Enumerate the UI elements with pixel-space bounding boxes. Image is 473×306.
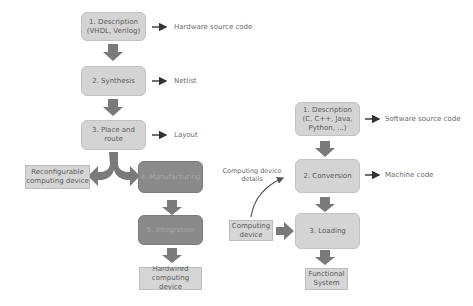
- functional-system: Functional System: [305, 268, 348, 290]
- hw-step-description: 1. Description (VHDL, Verilog): [81, 12, 146, 41]
- sw-output-machine-code: Machine code: [385, 171, 433, 179]
- computing-device: Computing device: [229, 220, 273, 241]
- reconfigurable-device: Reconfigurable computing device: [25, 165, 90, 189]
- hw-step-integration: 5. Integration: [138, 215, 203, 245]
- sw-step-description: 1. Description (C, C++, Java, Python, ..…: [295, 102, 360, 136]
- device-details-note: Computing device details: [222, 167, 282, 183]
- hardwired-device: Hardwired computing device: [139, 267, 202, 290]
- hw-step-synthesis: 2. Synthesis: [81, 66, 146, 96]
- hw-output-netlist: Netlist: [174, 77, 197, 85]
- hw-step-place-route: 3. Place and route: [81, 120, 146, 150]
- output-arrow-icon: [152, 27, 379, 175]
- sw-step-loading: 3. Loading: [295, 213, 360, 249]
- hw-output-layout: Layout: [174, 131, 198, 139]
- sw-step-conversion: 2. Conversion: [295, 159, 360, 193]
- sw-output-source-code: Software source code: [385, 115, 460, 123]
- hw-output-source-code: Hardware source code: [174, 23, 252, 31]
- connector-layer: [0, 0, 473, 306]
- curved-arrow-icon: [251, 178, 283, 217]
- hw-step-manufacturing: 4. Manufacturing: [138, 161, 203, 193]
